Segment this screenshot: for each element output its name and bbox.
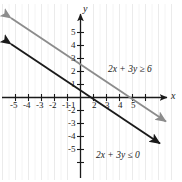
line-lower-boundary (11, 44, 160, 144)
x-tick-2: 2 (92, 101, 97, 110)
y-tick-neg4: -4 (68, 132, 76, 141)
x-tick-neg2: -2 (49, 101, 57, 110)
graph-figure: x y -5 -4 -3 -2 -1 2 3 4 5 1 2 3 4 5 -1 … (0, 0, 182, 182)
x-tick-neg4: -4 (23, 101, 31, 110)
y-tick-5: 5 (71, 28, 76, 37)
y-tick-4: 4 (71, 41, 76, 50)
vertical-gridlines (3, 4, 172, 180)
y-tick-neg3: -3 (68, 119, 76, 128)
y-tick-1: 1 (71, 80, 76, 89)
y-tick-neg5: -5 (68, 145, 76, 154)
x-tick-5: 5 (131, 101, 136, 110)
y-tick-neg2: -2 (68, 106, 76, 115)
secondary-gridlines (9, 4, 165, 180)
x-tick-neg5: -5 (10, 101, 18, 110)
x-tick-3: 3 (105, 101, 110, 110)
y-tick-3: 3 (71, 54, 76, 63)
x-tick-neg3: -3 (36, 101, 44, 110)
y-axis-label: y (83, 4, 87, 14)
inequality-label-lower: 2x + 3y ≤ 0 (96, 151, 140, 161)
x-axis-label: x (171, 91, 175, 101)
y-tick-2: 2 (71, 67, 76, 76)
inequality-label-upper: 2x + 3y ≥ 6 (108, 65, 152, 75)
x-tick-4: 4 (118, 101, 123, 110)
coordinate-plane (0, 0, 182, 182)
